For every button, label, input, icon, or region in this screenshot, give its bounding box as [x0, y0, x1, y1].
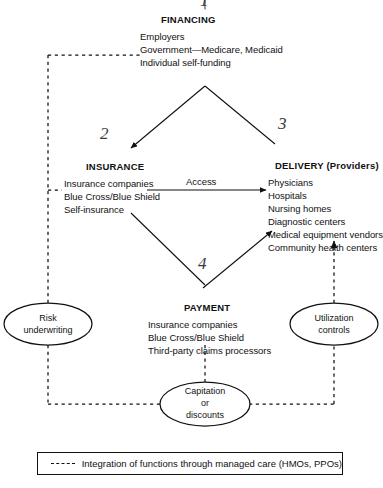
financing-header: FINANCING: [161, 14, 216, 25]
delivery-item-medical-equipment-vendors: Medical equipment vendors: [268, 229, 383, 240]
edge-financing-to-insurance: [131, 86, 205, 148]
access-edge-label: Access: [186, 176, 216, 187]
edge-financing-to-delivery: [205, 86, 275, 144]
risk-oval-line1: Risk: [8, 313, 88, 324]
capitation-oval-line3: discounts: [165, 410, 245, 421]
insurance-item-companies: Insurance companies: [64, 178, 153, 189]
payment-item-blue-cross: Blue Cross/Blue Shield: [148, 332, 244, 343]
payment-item-insurance-companies: Insurance companies: [148, 319, 237, 330]
risk-oval-line2: underwriting: [8, 325, 88, 336]
financing-item-government: Government—Medicare, Medicaid: [140, 44, 283, 55]
capitation-oval-line1: Capitation: [165, 386, 245, 397]
financing-item-individual: Individual self-funding: [140, 57, 231, 68]
step-number-3: 3: [278, 114, 287, 134]
step-number-4: 4: [198, 254, 207, 274]
legend-label: Integration of functions through managed…: [82, 458, 342, 469]
payment-header: PAYMENT: [184, 302, 230, 313]
utilization-oval-line1: Utilization: [294, 313, 374, 324]
edge-payment-to-delivery: [203, 231, 272, 288]
delivery-item-diagnostic-centers: Diagnostic centers: [268, 216, 345, 227]
capitation-oval-line2: or: [165, 398, 245, 409]
legend: Integration of functions through managed…: [37, 452, 343, 475]
delivery-item-community-health-centers: Community health centers: [268, 242, 377, 253]
insurance-item-self-insurance: Self-insurance: [64, 204, 124, 215]
insurance-header: INSURANCE: [86, 161, 144, 172]
insurance-item-blue-cross: Blue Cross/Blue Shield: [64, 191, 160, 202]
delivery-item-nursing-homes: Nursing homes: [268, 203, 331, 214]
edge-insurance-to-payment: [131, 213, 205, 285]
step-number-2: 2: [100, 124, 109, 144]
delivery-header: DELIVERY (Providers): [275, 160, 379, 171]
dashed-line-swatch-icon: [51, 463, 75, 464]
utilization-oval-line2: controls: [294, 325, 374, 336]
step-number-1: 1: [200, 0, 209, 11]
delivery-item-physicians: Physicians: [268, 177, 313, 188]
delivery-item-hospitals: Hospitals: [268, 190, 307, 201]
financing-item-employers: Employers: [140, 31, 184, 42]
payment-item-third-party: Third-party claims processors: [148, 345, 271, 356]
